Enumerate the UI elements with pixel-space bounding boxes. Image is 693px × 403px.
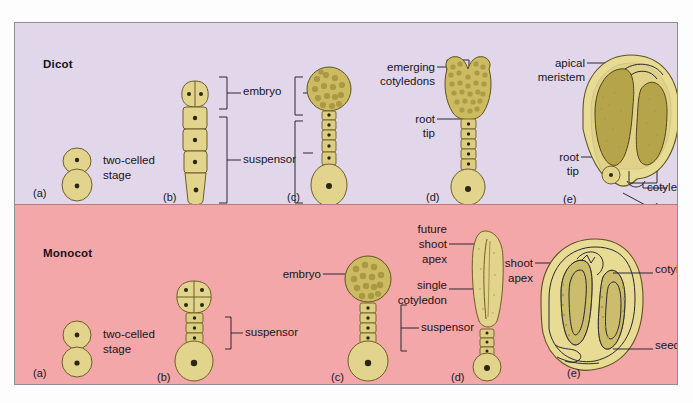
monocot-letter-a: (a) xyxy=(33,367,46,379)
dicot-stage-a xyxy=(55,143,101,204)
dicot-stage-c xyxy=(303,65,355,204)
monocot-stage-e xyxy=(527,233,651,383)
monocot-d-label-5: cotyledon xyxy=(367,294,447,307)
dicot-a-label-2: stage xyxy=(103,169,131,182)
embryo-development-figure: Dicot (a) two-celled stage xyxy=(0,0,693,403)
dicot-d-tip-label: tip xyxy=(367,127,435,140)
monocot-letter-e: (e) xyxy=(567,367,580,379)
dicot-d-label-2: cotyledons xyxy=(353,75,435,88)
monocot-e-cotyledon-leader xyxy=(613,269,653,279)
dicot-panel: Dicot (a) two-celled stage xyxy=(14,22,678,204)
monocot-e-seedcoat-label: seed coat xyxy=(655,339,678,352)
monocot-d-label-2: shoot xyxy=(375,238,447,251)
monocot-a-label-1: two-celled xyxy=(103,328,155,341)
monocot-a-label-2: stage xyxy=(103,343,131,356)
dicot-letter-b: (b) xyxy=(163,191,176,203)
monocot-b-suspensor-label: suspensor xyxy=(245,326,298,339)
dicot-embryo-bracket xyxy=(217,75,241,113)
dicot-letter-c: (c) xyxy=(287,191,300,203)
dicot-letter-a: (a) xyxy=(33,187,46,199)
monocot-letter-d: (d) xyxy=(451,371,464,383)
monocot-e-seedcoat-leader xyxy=(613,345,653,355)
monocot-c-suspensor-bracket xyxy=(397,303,419,355)
monocot-b-suspensor-bracket xyxy=(221,315,243,353)
monocot-c-embryo-label: embryo xyxy=(261,268,321,281)
monocot-stage-d xyxy=(459,225,515,381)
dicot-suspensor-bracket xyxy=(217,115,241,204)
dicot-b-embryo-label: embryo xyxy=(243,85,281,98)
monocot-d-label-1: future xyxy=(375,223,447,236)
dicot-d-label-1: emerging xyxy=(353,61,435,74)
monocot-e-apex-label: apex xyxy=(467,272,533,285)
monocot-stage-c xyxy=(341,253,395,381)
monocot-d-label-3: apex xyxy=(375,253,447,266)
monocot-letter-b: (b) xyxy=(157,371,170,383)
dicot-letter-d: (d) xyxy=(426,191,439,203)
dicot-stage-d xyxy=(435,53,501,204)
dicot-stage-b xyxy=(175,73,215,204)
monocot-stage-b xyxy=(167,275,221,381)
monocot-group-label: Monocot xyxy=(43,247,92,259)
monocot-letter-c: (c) xyxy=(331,371,344,383)
monocot-d-label-4: single xyxy=(375,279,447,292)
dicot-e-root-label: root xyxy=(513,151,579,164)
clipped-header xyxy=(0,0,693,12)
dicot-e-tip-label: tip xyxy=(513,165,579,178)
monocot-e-cotyledon-label: cotyledon xyxy=(655,263,678,276)
dicot-d-root-label: root xyxy=(367,113,435,126)
monocot-panel: Monocot (a) two-celled stage xyxy=(14,204,678,385)
dicot-group-label: Dicot xyxy=(43,58,73,70)
dicot-a-label-1: two-celled xyxy=(103,154,155,167)
dicot-letter-e: (e) xyxy=(563,193,576,204)
monocot-e-shoot-label: shoot xyxy=(467,257,533,270)
monocot-stage-a xyxy=(55,317,101,381)
